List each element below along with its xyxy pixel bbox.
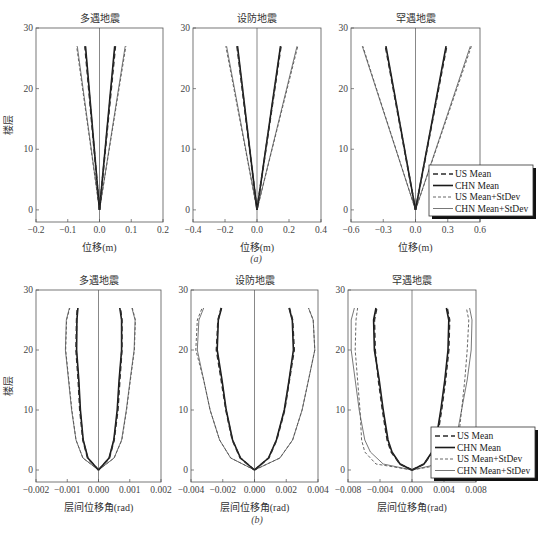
legend-item-label: CHN Mean+StDev bbox=[457, 466, 530, 476]
series-line-chn-mean-stdev bbox=[351, 308, 412, 470]
x-tick-label: 0.000 bbox=[401, 485, 423, 495]
x-tick-label: 0.0 bbox=[410, 225, 422, 235]
panel-title: 多遇地震 bbox=[80, 12, 120, 24]
series-line-chn-mean bbox=[77, 308, 99, 470]
y-tick-label: 20 bbox=[339, 84, 349, 94]
x-axis-label: 层间位移角(rad) bbox=[64, 501, 133, 514]
x-tick-label: −0.4 bbox=[184, 225, 201, 235]
legend-item-label: US Mean bbox=[455, 169, 491, 179]
y-tick-label: 10 bbox=[336, 405, 346, 415]
x-tick-label: −0.008 bbox=[335, 485, 362, 495]
x-tick-label: −0.2 bbox=[216, 225, 233, 235]
y-tick-label: 20 bbox=[336, 345, 346, 355]
series-line-us-mean-stdev bbox=[355, 308, 412, 470]
legend-item-label: CHN Mean+StDev bbox=[455, 204, 528, 214]
x-tick-label: −0.004 bbox=[178, 485, 205, 495]
series-line-us-mean-stdev bbox=[363, 46, 416, 210]
x-tick-label: 0.0 bbox=[94, 225, 106, 235]
panel-title: 罕遇地震 bbox=[396, 12, 436, 24]
x-tick-label: 0.002 bbox=[150, 485, 172, 495]
x-tick-label: 0.1 bbox=[125, 225, 137, 235]
y-tick-label: 10 bbox=[179, 405, 189, 415]
y-tick-label: 10 bbox=[339, 144, 349, 154]
y-axis-label: 楼层 bbox=[2, 115, 14, 135]
y-tick-label: 0 bbox=[28, 205, 33, 215]
x-tick-label: 0.6 bbox=[474, 225, 486, 235]
series-line-us-mean-stdev bbox=[99, 308, 136, 470]
x-axis-label: 位移(m) bbox=[82, 241, 116, 254]
legend-item-label: US Mean bbox=[457, 431, 493, 441]
x-axis-label: 层间位移角(rad) bbox=[377, 501, 446, 514]
x-tick-label: −0.002 bbox=[23, 485, 50, 495]
x-tick-label: 0.004 bbox=[307, 485, 329, 495]
x-tick-label: 0.0 bbox=[251, 225, 263, 235]
legend-item-label: CHN Mean bbox=[455, 181, 499, 191]
series-line-us-mean bbox=[237, 46, 257, 210]
y-tick-label: 20 bbox=[24, 345, 34, 355]
y-tick-label: 0 bbox=[185, 205, 190, 215]
y-tick-label: 30 bbox=[179, 285, 189, 295]
x-tick-label: 0.001 bbox=[119, 485, 141, 495]
y-tick-label: 30 bbox=[24, 285, 34, 295]
x-tick-label: 0.000 bbox=[244, 485, 266, 495]
series-line-us-mean-stdev bbox=[66, 308, 99, 470]
y-tick-label: 30 bbox=[339, 23, 349, 33]
y-tick-label: 20 bbox=[24, 84, 34, 94]
series-line-chn-mean-stdev bbox=[227, 46, 257, 210]
series-line-us-mean bbox=[374, 308, 412, 470]
x-tick-label: −0.1 bbox=[59, 225, 76, 235]
chart-panel-2: 设防地震0102030−0.4−0.20.00.20.4位移(m) bbox=[181, 12, 328, 254]
chart-panel-1: 多遇地震0102030−0.2−0.10.00.10.2位移(m)楼层 bbox=[2, 12, 169, 254]
panel-title: 设防地震 bbox=[235, 274, 275, 286]
series-line-us-mean-stdev bbox=[196, 308, 255, 470]
y-tick-label: 10 bbox=[24, 144, 34, 154]
x-axis-label: 位移(m) bbox=[398, 241, 432, 254]
y-tick-label: 0 bbox=[183, 465, 188, 475]
series-line-us-mean bbox=[85, 46, 100, 210]
series-line-chn-mean-stdev bbox=[255, 308, 315, 470]
x-tick-label: −0.002 bbox=[209, 485, 236, 495]
legend: US MeanCHN MeanUS Mean+StDevCHN Mean+StD… bbox=[431, 427, 538, 481]
panel-title: 罕遇地震 bbox=[392, 274, 432, 286]
x-tick-label: 0.3 bbox=[442, 225, 454, 235]
subfigure-label-a: (a) bbox=[250, 253, 262, 265]
figure: 多遇地震0102030−0.2−0.10.00.10.2位移(m)楼层设防地震0… bbox=[0, 0, 547, 534]
x-tick-label: −0.2 bbox=[27, 225, 44, 235]
panel-title: 多遇地震 bbox=[79, 274, 119, 286]
x-tick-label: 0.008 bbox=[465, 485, 487, 495]
x-tick-label: 0.004 bbox=[433, 485, 455, 495]
x-tick-label: 0.002 bbox=[276, 485, 298, 495]
series-line-us-mean-stdev bbox=[255, 308, 315, 470]
x-tick-label: −0.3 bbox=[375, 225, 392, 235]
legend-item-label: US Mean+StDev bbox=[457, 454, 523, 464]
y-tick-label: 20 bbox=[179, 345, 189, 355]
legend-item-label: US Mean+StDev bbox=[455, 192, 521, 202]
y-tick-label: 0 bbox=[343, 205, 348, 215]
chart-panel-5: 设防地震0102030−0.004−0.0020.0000.0020.004层间… bbox=[178, 274, 329, 514]
y-tick-label: 0 bbox=[340, 465, 345, 475]
x-tick-label: −0.001 bbox=[54, 485, 81, 495]
chart-panel-6: 罕遇地震0102030−0.008−0.0040.0000.0040.008层间… bbox=[335, 274, 538, 514]
y-axis-label: 楼层 bbox=[2, 376, 14, 396]
x-tick-label: 0.4 bbox=[315, 225, 327, 235]
y-tick-label: 20 bbox=[181, 84, 191, 94]
panel-title: 设防地震 bbox=[237, 12, 277, 24]
y-tick-label: 30 bbox=[336, 285, 346, 295]
x-tick-label: 0.000 bbox=[88, 485, 110, 495]
legend: US MeanCHN MeanUS Mean+StDevCHN Mean+StD… bbox=[429, 165, 536, 219]
series-line-chn-mean bbox=[99, 308, 122, 470]
chart-panel-4: 多遇地震0102030−0.002−0.0010.0000.0010.002层间… bbox=[2, 274, 172, 514]
x-axis-label: 层间位移角(rad) bbox=[220, 501, 289, 514]
x-tick-label: −0.6 bbox=[342, 225, 359, 235]
series-line-chn-mean-stdev bbox=[65, 308, 98, 470]
y-tick-label: 10 bbox=[181, 144, 191, 154]
x-tick-label: −0.004 bbox=[367, 485, 394, 495]
legend-item-label: CHN Mean bbox=[457, 443, 501, 453]
x-tick-label: 0.2 bbox=[157, 225, 169, 235]
y-tick-label: 30 bbox=[24, 23, 34, 33]
y-tick-label: 10 bbox=[24, 405, 34, 415]
y-tick-label: 0 bbox=[28, 465, 33, 475]
y-tick-label: 30 bbox=[181, 23, 191, 33]
subfigure-label-b: (b) bbox=[251, 514, 263, 526]
x-tick-label: 0.2 bbox=[283, 225, 295, 235]
